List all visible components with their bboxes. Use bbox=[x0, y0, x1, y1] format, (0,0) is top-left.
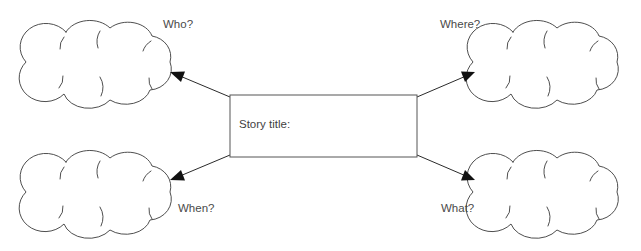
connector-to-who bbox=[170, 72, 230, 98]
arrow-head-to-when bbox=[170, 170, 185, 181]
connector-to-where bbox=[417, 72, 475, 98]
diagram-canvas bbox=[0, 0, 641, 251]
story-map-diagram: Who? Where? When? What? Story title: bbox=[0, 0, 641, 251]
cloud-label-where: Where? bbox=[440, 19, 480, 31]
cloud-shape-where[interactable] bbox=[466, 20, 618, 108]
cloud-outline-where bbox=[466, 20, 618, 108]
cloud-outline-who bbox=[19, 20, 171, 108]
connector-to-what bbox=[417, 155, 475, 181]
arrow-head-to-who bbox=[170, 72, 185, 83]
connector-line-to-where bbox=[417, 76, 466, 97]
cloud-outline-when bbox=[19, 150, 171, 238]
cloud-label-who: Who? bbox=[163, 19, 193, 31]
cloud-shape-when[interactable] bbox=[19, 150, 171, 238]
cloud-outline-what bbox=[466, 150, 618, 238]
connector-line-to-what bbox=[417, 155, 466, 176]
connector-line-to-when bbox=[180, 155, 230, 176]
center-box-label: Story title: bbox=[239, 119, 290, 131]
connector-line-to-who bbox=[180, 76, 230, 97]
cloud-shape-who[interactable] bbox=[19, 20, 171, 108]
cloud-label-when: When? bbox=[178, 203, 214, 215]
cloud-shape-what[interactable] bbox=[466, 150, 618, 238]
cloud-label-what: What? bbox=[441, 203, 474, 215]
connector-to-when bbox=[170, 155, 230, 181]
